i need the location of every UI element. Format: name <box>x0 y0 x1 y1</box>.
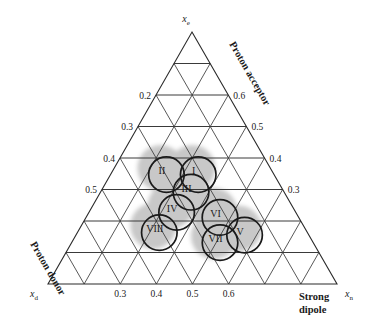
cluster-label-V: V <box>236 226 244 237</box>
edge-label-strong-dipole-line1: Strong <box>299 291 330 302</box>
tick-right-0.4: 0.4 <box>270 154 282 164</box>
corner-label-bottom-right: xn <box>344 288 353 302</box>
tick-bottom-0.3: 0.3 <box>114 289 126 299</box>
cluster-label-VI: VI <box>210 208 221 219</box>
ternary-diagram-figure: IIIIIIIVVVIVIIVIII 0.20.30.40.50.60.50.4… <box>0 0 376 325</box>
cluster-label-I: I <box>192 165 195 176</box>
cluster-label-III: III <box>182 183 192 194</box>
tick-left-0.4: 0.4 <box>103 154 115 164</box>
svg-text:xe: xe <box>181 13 190 27</box>
tick-right-0.3: 0.3 <box>288 185 300 195</box>
corner-br-sub: n <box>349 294 353 302</box>
tick-bottom-0.6: 0.6 <box>223 289 235 299</box>
edge-label-strong-dipole-line2: dipole <box>299 304 327 315</box>
grid-line-left-diagonal <box>66 253 84 285</box>
tick-left-0.5: 0.5 <box>85 185 97 195</box>
corner-top-sub: e <box>187 19 190 27</box>
grid-line-right-diagonal <box>301 253 319 285</box>
cluster-label-II: II <box>159 165 166 176</box>
cluster-label-VII: VII <box>209 233 223 244</box>
tick-left-0.2: 0.2 <box>139 91 151 101</box>
tick-bottom-0.4: 0.4 <box>150 289 162 299</box>
tick-bottom-0.5: 0.5 <box>187 289 199 299</box>
tick-right-0.5: 0.5 <box>251 122 263 132</box>
corner-bl-sub: d <box>34 294 38 302</box>
cluster-label-IV: IV <box>167 203 178 214</box>
corner-label-top: xe <box>181 13 190 27</box>
tick-left-0.3: 0.3 <box>121 122 133 132</box>
svg-text:xd: xd <box>29 288 38 302</box>
cluster-blob-layer <box>130 145 261 259</box>
cluster-label-VIII: VIII <box>146 223 163 234</box>
ternary-plot-svg: IIIIIIIVVVIVIIVIII 0.20.30.40.50.60.50.4… <box>0 0 376 325</box>
svg-text:xn: xn <box>344 288 353 302</box>
corner-label-bottom-left: xd <box>29 288 38 302</box>
tick-right-0.6: 0.6 <box>233 91 245 101</box>
